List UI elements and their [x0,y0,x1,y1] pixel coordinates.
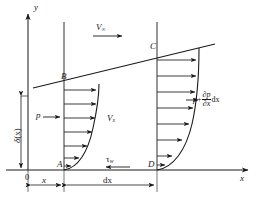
pressure-right-label: p+∂p∂xdx [193,91,219,108]
dimension-label-dx: dx [103,176,112,185]
origin-label: 0 [25,173,29,182]
wall-shear-subscript: w [110,158,114,164]
free-stream-velocity-subscript: ∞ [102,26,106,32]
corner-label-d: D [148,160,155,169]
corner-label-c: C [150,42,156,51]
corner-label-b: B [61,72,67,81]
boundary-layer-thickness-label: δ(x) [13,128,22,143]
delta-edge-line [33,44,215,88]
pressure-left-label: p [36,111,41,120]
pressure-gradient-denominator: ∂x [202,100,212,108]
x-axis-label: x [240,174,244,183]
boundary-layer-edge [33,44,215,88]
velocity-profile-right [157,48,199,170]
delta-argument: (x) [12,128,22,139]
pressure-gradient-fraction: ∂p∂x [202,91,212,108]
free-stream-velocity-label: V∞ [96,23,105,33]
profile-curve-left [64,84,99,170]
figure-canvas: y x 0 V∞ Vx p p+∂p∂xdx τw δ(x) B C A D x… [0,0,256,206]
y-axis-label: y [34,3,38,12]
velocity-profile-subscript: x [113,117,115,123]
dimension-label-x: x [42,176,46,185]
pressure-right-dx: dx [211,95,219,104]
control-volume-edges [64,22,157,170]
corner-label-a: A [57,160,63,169]
profile-curve-right [157,48,199,170]
delta-symbol: δ [12,139,22,143]
velocity-profile-label: Vx [107,114,115,124]
velocity-profile-left [64,84,99,170]
wall-shear-label: τw [106,155,113,165]
dimension-chain [28,170,157,192]
delta-dimension [21,96,28,168]
